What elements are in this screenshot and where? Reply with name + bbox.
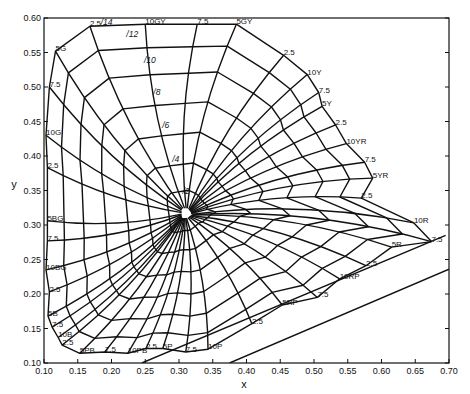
hue-line: [189, 55, 284, 209]
x-axis-ticks: 0.100.150.200.250.300.350.400.450.500.55…: [35, 359, 458, 376]
y-tick-label: 0.25: [23, 255, 41, 265]
hue-label: 10BG: [46, 263, 66, 272]
x-tick-label: 0.50: [305, 366, 323, 376]
y-axis-title: y: [11, 178, 17, 190]
x-tick-label: 0.70: [440, 366, 458, 376]
hue-label: 5Y: [322, 99, 332, 108]
chroma-label: /6: [161, 120, 169, 130]
hue-label: 7.5: [186, 345, 198, 354]
x-tick-label: 0.65: [406, 366, 424, 376]
chroma-label: /10: [143, 55, 156, 65]
x-axis-title: x: [241, 378, 247, 390]
x-tick-label: 0.25: [136, 366, 154, 376]
munsell-chromaticity-chart: 2.510GY7.55GY2.510Y7.55Y2.510YR7.55YR2.5…: [0, 0, 470, 394]
hue-label: 2.5: [366, 259, 378, 268]
hue-label: 7.5: [317, 290, 329, 299]
hue-label: 7.5: [105, 345, 117, 354]
hue-line: [190, 216, 318, 297]
hue-label: 7.5: [365, 155, 377, 164]
white-point: [182, 210, 190, 218]
hue-label: 5YR: [373, 171, 389, 180]
y-tick-label: 0.40: [23, 151, 41, 161]
y-tick-label: 0.45: [23, 117, 41, 127]
hue-label: 10B: [58, 330, 72, 339]
y-tick-label: 0.50: [23, 82, 41, 92]
hue-label: 7.5: [52, 320, 64, 329]
y-tick-label: 0.20: [23, 289, 41, 299]
hue-label: 7.5: [431, 235, 443, 244]
munsell-curves: [46, 24, 449, 363]
x-tick-label: 0.45: [271, 366, 289, 376]
hue-label: 5R: [392, 240, 402, 249]
hue-label: 10RP: [340, 272, 360, 281]
hue-label: 5P: [163, 342, 173, 351]
hue-line: [46, 135, 182, 211]
x-tick-label: 0.30: [170, 366, 188, 376]
chroma-label: /8: [152, 87, 160, 97]
y-tick-label: 0.35: [23, 186, 41, 196]
hue-label: 5PB: [80, 346, 95, 355]
hue-label: 10G: [46, 128, 61, 137]
hue-line: [190, 216, 339, 279]
hue-line: [186, 218, 191, 352]
y-tick-label: 0.15: [23, 324, 41, 334]
x-tick-label: 0.35: [204, 366, 222, 376]
hue-label: 5RP: [282, 298, 298, 307]
x-tick-label: 0.20: [103, 366, 121, 376]
chroma-label: /12: [125, 29, 138, 39]
y-tick-label: 0.10: [23, 358, 41, 368]
chroma-label: /4: [171, 154, 179, 164]
hue-label: 7.5: [47, 234, 59, 243]
hue-label: 2.5: [47, 161, 59, 170]
hue-label: 5G: [55, 44, 66, 53]
hue-label: 2.5: [284, 48, 296, 57]
hue-label: 7.5: [319, 86, 331, 95]
hue-label: 2.5: [252, 317, 264, 326]
hue-label: 10PB: [128, 346, 148, 355]
chroma-label: /2: [181, 186, 189, 196]
hue-label: 5BG: [47, 214, 63, 223]
hue-label: 7.5: [49, 80, 61, 89]
hue-label: 10P: [208, 342, 222, 351]
x-tick-label: 0.15: [69, 366, 87, 376]
hue-label: 10R: [414, 216, 429, 225]
hue-label: 10Y: [307, 68, 322, 77]
hue-line: [90, 26, 183, 208]
y-tick-label: 0.55: [23, 48, 41, 58]
hue-label: 2.5: [49, 285, 61, 294]
hue-line: [145, 24, 184, 208]
hue-label: 5B: [48, 309, 58, 318]
hue-label: 2.5: [336, 118, 348, 127]
hue-label: 2.5: [361, 191, 373, 200]
y-tick-label: 0.60: [23, 13, 41, 23]
hue-label: 10YR: [346, 137, 366, 146]
hue-label: 2.5: [146, 342, 158, 351]
x-tick-label: 0.55: [339, 366, 357, 376]
x-tick-label: 0.60: [373, 366, 391, 376]
x-tick-label: 0.40: [238, 366, 256, 376]
y-tick-label: 0.30: [23, 220, 41, 230]
